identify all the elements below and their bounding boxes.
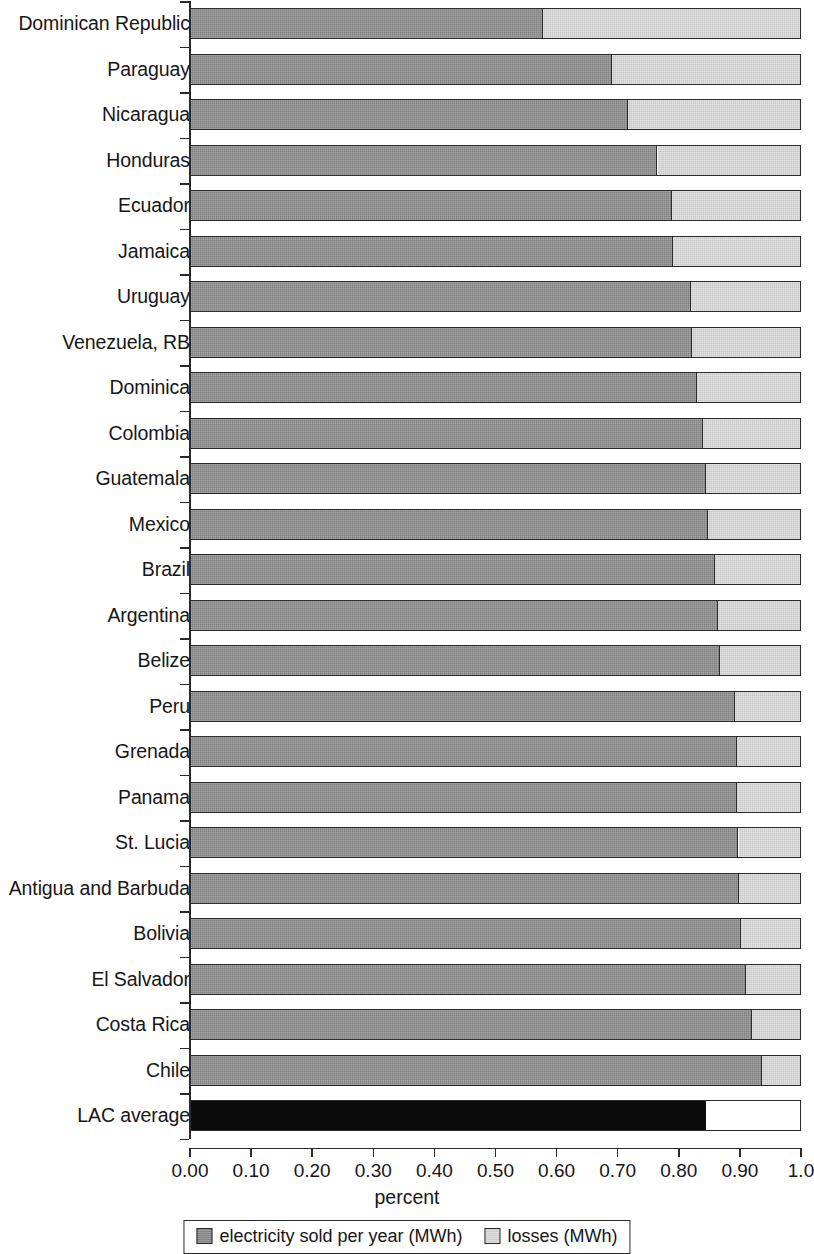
bar-track <box>190 8 801 39</box>
bar-track <box>190 509 801 540</box>
y-axis-tick <box>180 593 189 595</box>
category-label: Belize <box>137 638 190 684</box>
y-axis-tick <box>180 729 189 731</box>
bar-segment-electricity-sold <box>191 419 703 448</box>
y-axis-tick <box>180 911 189 913</box>
bar-segment-losses <box>691 282 800 311</box>
y-axis-tick <box>180 775 189 777</box>
chart-row: Dominican Republic <box>0 1 814 47</box>
chart-row: Panama <box>0 775 814 821</box>
bar-track <box>190 736 801 767</box>
bar-segment-electricity-sold <box>191 1056 762 1085</box>
category-label: El Salvador <box>91 957 190 1003</box>
chart-legend: electricity sold per year (MWh)losses (M… <box>183 1220 630 1254</box>
y-axis-tick <box>180 1139 189 1141</box>
legend-item: losses (MWh) <box>485 1226 618 1247</box>
x-axis-tick-label: 0.00 <box>172 1160 209 1182</box>
category-label: Ecuador <box>118 183 190 229</box>
bar-segment-losses <box>612 55 800 84</box>
bar-segment-losses <box>739 828 801 857</box>
y-axis-tick <box>180 365 189 367</box>
category-label: Brazil <box>142 547 190 593</box>
chart-row: Brazil <box>0 547 814 593</box>
chart-row: El Salvador <box>0 957 814 1003</box>
bar-segment-losses <box>673 237 800 266</box>
bar-track <box>190 645 801 676</box>
category-label: St. Lucia <box>115 820 190 866</box>
bar-track <box>190 1009 801 1040</box>
bar-segment-electricity-sold <box>191 9 543 38</box>
y-axis-tick <box>180 183 189 185</box>
category-label: Colombia <box>108 411 190 457</box>
legend-swatch-electricity-sold-icon <box>196 1228 212 1244</box>
bar-track <box>190 827 801 858</box>
x-axis-tick-label: 0.50 <box>477 1160 514 1182</box>
bar-segment-losses <box>735 692 800 721</box>
x-axis-tick <box>434 1148 436 1157</box>
bar-segment-losses <box>715 555 800 584</box>
x-axis-tick-label: 0.70 <box>599 1160 636 1182</box>
bar-segment-losses <box>628 100 800 129</box>
bar-segment-electricity-sold <box>191 510 708 539</box>
bar-track <box>190 190 801 221</box>
x-axis-tick <box>250 1148 252 1157</box>
x-axis-tick-label: 0.80 <box>660 1160 697 1182</box>
y-axis-tick <box>180 229 189 231</box>
bar-segment-losses <box>737 737 800 766</box>
bar-segment-electricity-sold <box>191 1101 706 1130</box>
y-axis-tick <box>180 957 189 959</box>
bar-segment-electricity-sold <box>191 1010 752 1039</box>
y-axis-spine <box>189 1 191 1139</box>
bar-track <box>190 918 801 949</box>
bar-track <box>190 782 801 813</box>
chart-row: Bolivia <box>0 911 814 957</box>
y-axis-tick <box>180 1093 189 1095</box>
category-label: Peru <box>149 684 190 730</box>
bar-segment-losses <box>720 646 800 675</box>
bar-segment-electricity-sold <box>191 100 628 129</box>
bar-track <box>190 1055 801 1086</box>
bar-segment-losses <box>737 783 800 812</box>
bar-segment-losses <box>718 601 800 630</box>
bar-segment-electricity-sold <box>191 783 737 812</box>
chart-row-average: LAC average <box>0 1093 814 1139</box>
bar-segment-electricity-sold <box>191 828 738 857</box>
chart-row: Dominica <box>0 365 814 411</box>
category-label: Mexico <box>129 502 190 548</box>
x-axis-spine: 0.000.100.200.300.400.500.600.700.800.90… <box>190 1148 801 1150</box>
bar-segment-electricity-sold <box>191 874 739 903</box>
category-label: Grenada <box>115 729 190 775</box>
bar-track <box>190 600 801 631</box>
bar-track <box>190 281 801 312</box>
category-label: Dominica <box>110 365 190 411</box>
y-axis-tick <box>180 456 189 458</box>
category-label: Guatemala <box>96 456 191 502</box>
y-axis-tick <box>180 820 189 822</box>
x-axis-tick <box>373 1148 375 1157</box>
category-label: Nicaragua <box>102 92 190 138</box>
x-axis-tick-label: 0.10 <box>233 1160 270 1182</box>
chart-row: Grenada <box>0 729 814 775</box>
bar-track <box>190 372 801 403</box>
y-axis-tick <box>180 684 189 686</box>
x-axis-tick-label: 0.40 <box>416 1160 453 1182</box>
bar-track <box>190 964 801 995</box>
chart-row: Argentina <box>0 593 814 639</box>
bar-segment-electricity-sold <box>191 146 657 175</box>
bar-segment-losses <box>708 510 800 539</box>
chart-row: Antigua and Barbuda <box>0 866 814 912</box>
category-label: Antigua and Barbuda <box>9 866 190 912</box>
bar-track <box>190 327 801 358</box>
x-axis-tick <box>189 1148 191 1157</box>
category-label: Chile <box>146 1048 190 1094</box>
y-axis-tick <box>180 1 189 3</box>
chart-row: Colombia <box>0 411 814 457</box>
category-label: Dominican Republic <box>18 1 190 47</box>
legend-swatch-losses-icon <box>485 1228 501 1244</box>
x-axis-tick-label: 0.20 <box>294 1160 331 1182</box>
bar-segment-losses <box>697 373 800 402</box>
bar-segment-losses <box>543 9 800 38</box>
chart-row: Honduras <box>0 138 814 184</box>
bar-segment-electricity-sold <box>191 692 735 721</box>
y-axis-tick <box>180 1002 189 1004</box>
